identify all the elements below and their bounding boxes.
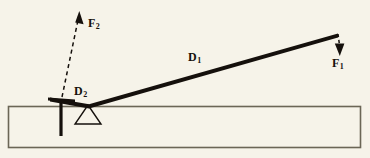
lever-bar xyxy=(50,34,338,109)
force-f1-arrowhead xyxy=(335,44,345,56)
force-f1-dashed-line xyxy=(338,34,340,45)
lever-diagram-svg xyxy=(0,0,370,158)
label-distance-d2: D2 xyxy=(74,85,87,97)
label-force-f1-sub: 1 xyxy=(340,62,344,71)
label-distance-d2-sub: 2 xyxy=(83,90,87,99)
label-force-f1-base: F xyxy=(332,56,340,70)
force-f2-arrowhead xyxy=(75,11,83,24)
label-force-f1: F1 xyxy=(332,57,344,69)
label-force-f2: F2 xyxy=(88,17,100,29)
label-distance-d1-sub: 1 xyxy=(197,56,201,65)
label-force-f2-sub: 2 xyxy=(96,22,100,31)
label-distance-d1: D1 xyxy=(188,51,201,63)
diagram-canvas: F2 F1 D1 D2 xyxy=(0,0,370,158)
label-distance-d1-base: D xyxy=(188,50,197,64)
label-force-f2-base: F xyxy=(88,16,96,30)
label-distance-d2-base: D xyxy=(74,84,83,98)
